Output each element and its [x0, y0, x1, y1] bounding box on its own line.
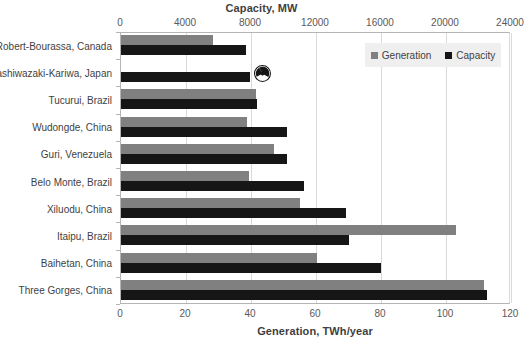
category-tick-mark — [116, 250, 120, 251]
bar-capacity[interactable] — [121, 45, 246, 55]
bar-capacity[interactable] — [121, 181, 304, 191]
bar-row — [121, 142, 509, 169]
category-label: Guri, Venezuela — [41, 149, 112, 160]
top-axis-tick-label: 4000 — [174, 17, 196, 28]
category-label: Belo Monte, Brazil — [31, 176, 112, 187]
legend-item-generation[interactable]: Generation — [371, 50, 431, 61]
top-axis-tick-label: 24000 — [496, 17, 524, 28]
bar-capacity[interactable] — [121, 235, 349, 245]
category-label: Kashiwazaki-Kariwa, Japan — [0, 67, 112, 78]
bottom-axis-tick-label: 40 — [244, 308, 255, 319]
legend: Generation Capacity — [365, 43, 501, 67]
legend-swatch-capacity-icon — [445, 52, 452, 59]
top-axis-title: Capacity, MW — [0, 2, 523, 14]
top-axis-tick-label: 8000 — [239, 17, 261, 28]
category-tick-mark — [116, 141, 120, 142]
bar-row — [121, 169, 509, 196]
bar-row — [121, 223, 509, 250]
category-label: Wudongde, China — [32, 122, 112, 133]
bottom-axis-tick-label: 0 — [117, 308, 123, 319]
bar-row — [121, 251, 509, 278]
top-axis-tick-label: 12000 — [301, 17, 329, 28]
category-tick-mark — [116, 222, 120, 223]
bar-capacity[interactable] — [121, 263, 381, 273]
category-label: Tucurui, Brazil — [48, 95, 112, 106]
bar-generation[interactable] — [121, 144, 274, 154]
bar-generation[interactable] — [121, 198, 300, 208]
category-label: Baihetan, China — [41, 258, 112, 269]
bar-capacity[interactable] — [121, 99, 257, 109]
bar-row — [121, 196, 509, 223]
category-label: Itaipu, Brazil — [57, 231, 112, 242]
category-tick-mark — [116, 277, 120, 278]
bottom-axis-tick-label: 60 — [309, 308, 320, 319]
bar-capacity[interactable] — [121, 154, 287, 164]
bottom-axis-tick-label: 120 — [502, 308, 519, 319]
bar-generation[interactable] — [121, 225, 456, 235]
bar-capacity[interactable] — [121, 72, 250, 82]
top-axis-tick-label: 16000 — [366, 17, 394, 28]
category-axis-labels: Robert-Bourassa, CanadaKashiwazaki-Kariw… — [0, 32, 116, 304]
category-tick-mark — [116, 168, 120, 169]
top-axis-tick-label: 20000 — [431, 17, 459, 28]
bottom-axis-tick-labels: 020406080100120 — [0, 308, 523, 321]
category-tick-mark — [116, 59, 120, 60]
category-tick-mark — [116, 86, 120, 87]
bar-generation[interactable] — [121, 35, 213, 45]
category-label: Xiluodu, China — [47, 203, 112, 214]
legend-item-capacity[interactable]: Capacity — [445, 50, 495, 61]
legend-label-capacity: Capacity — [456, 50, 495, 61]
bar-generation[interactable] — [121, 117, 247, 127]
bar-capacity[interactable] — [121, 127, 287, 137]
bar-generation[interactable] — [121, 253, 317, 263]
category-tick-mark — [116, 114, 120, 115]
plot-area — [120, 32, 510, 304]
category-tick-mark — [116, 304, 120, 305]
bar-rows — [121, 33, 509, 303]
bottom-axis-tick-label: 20 — [179, 308, 190, 319]
category-tick-mark — [116, 195, 120, 196]
bar-generation[interactable] — [121, 280, 484, 290]
bottom-axis-title: Generation, TWh/year — [120, 325, 510, 337]
bottom-axis-tick-label: 80 — [374, 308, 385, 319]
category-label: Robert-Bourassa, Canada — [0, 40, 112, 51]
category-tick-mark — [116, 32, 120, 33]
bottom-axis-tick-label: 100 — [437, 308, 454, 319]
legend-label-generation: Generation — [382, 50, 431, 61]
bar-row — [121, 87, 509, 114]
gridline — [511, 33, 512, 303]
bar-row — [121, 115, 509, 142]
category-label: Three Gorges, China — [19, 285, 112, 296]
bar-row — [121, 278, 509, 305]
nuclear-icon — [254, 65, 271, 82]
top-axis-tick-labels: 04000800012000160002000024000 — [0, 17, 523, 30]
bar-capacity[interactable] — [121, 208, 346, 218]
bar-generation[interactable] — [121, 89, 256, 99]
top-axis-tick-label: 0 — [117, 17, 123, 28]
legend-swatch-generation-icon — [371, 52, 378, 59]
bar-capacity[interactable] — [121, 290, 487, 300]
bar-generation[interactable] — [121, 171, 249, 181]
